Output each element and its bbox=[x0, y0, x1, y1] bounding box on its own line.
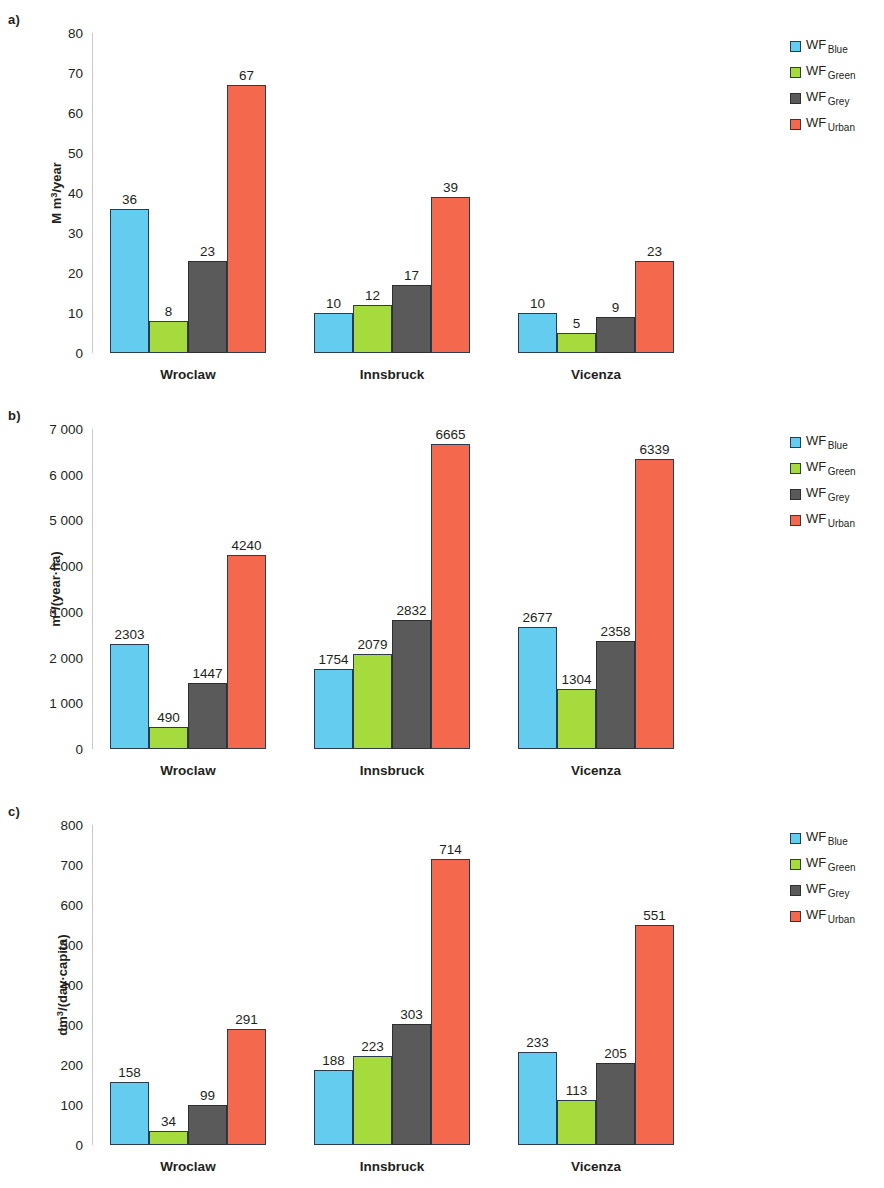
legend-swatch-blue-icon bbox=[790, 437, 801, 448]
bar: 233 bbox=[518, 1052, 557, 1145]
bar: 10 bbox=[314, 313, 353, 353]
bar: 158 bbox=[110, 1082, 149, 1145]
y-axis-tick-label: 100 bbox=[60, 1098, 83, 1113]
x-axis-category-label: Vicenza bbox=[571, 367, 621, 382]
bar: 551 bbox=[635, 925, 674, 1145]
legend-item-label: WFGrey bbox=[806, 89, 849, 106]
legend-item[interactable]: WFGreen bbox=[790, 59, 884, 85]
bar: 5 bbox=[557, 333, 596, 353]
bar: 188 bbox=[314, 1070, 353, 1145]
bar-value-label: 113 bbox=[566, 1083, 588, 1098]
legend-swatch-green-icon bbox=[790, 463, 801, 474]
bar: 1754 bbox=[314, 669, 353, 749]
y-axis-line bbox=[92, 33, 93, 353]
x-axis-category-label: Vicenza bbox=[571, 1159, 621, 1174]
bar-value-label: 490 bbox=[157, 710, 180, 725]
bar-value-label: 12 bbox=[365, 288, 380, 303]
legend-item-subscript: Grey bbox=[828, 888, 850, 899]
chart-panel-a: a) M m3/year 010203040506070803682367Wro… bbox=[0, 0, 884, 396]
bar-value-label: 67 bbox=[239, 68, 254, 83]
x-axis-category-label: Wroclaw bbox=[160, 367, 215, 382]
legend-item-subscript: Grey bbox=[828, 96, 850, 107]
legend-swatch-red-icon bbox=[790, 911, 801, 922]
bar: 4240 bbox=[227, 555, 266, 749]
legend-item[interactable]: WFUrban bbox=[790, 111, 884, 137]
x-axis-category-label: Innsbruck bbox=[360, 763, 425, 778]
legend-item[interactable]: WFGrey bbox=[790, 85, 884, 111]
bar-group: 1754207928326665Innsbruck bbox=[314, 429, 470, 749]
bar-value-label: 303 bbox=[400, 1007, 423, 1022]
legend-swatch-grey-icon bbox=[790, 885, 801, 896]
legend-item[interactable]: WFBlue bbox=[790, 825, 884, 851]
legend-item-subscript: Grey bbox=[828, 492, 850, 503]
legend-item-subscript: Urban bbox=[828, 122, 855, 133]
legend-item[interactable]: WFGreen bbox=[790, 455, 884, 481]
legend-item-label: WFGrey bbox=[806, 881, 849, 898]
legend-swatch-red-icon bbox=[790, 119, 801, 130]
legend-item-subscript: Blue bbox=[828, 836, 848, 847]
panel-letter-a: a) bbox=[8, 12, 20, 27]
bar-value-label: 4240 bbox=[231, 538, 261, 553]
legend-item[interactable]: WFUrban bbox=[790, 507, 884, 533]
bar-value-label: 39 bbox=[443, 180, 458, 195]
bar-group: 105923Vicenza bbox=[518, 33, 674, 353]
legend-swatch-blue-icon bbox=[790, 41, 801, 52]
y-axis-tick-label: 10 bbox=[68, 306, 83, 321]
bar-value-label: 8 bbox=[165, 304, 173, 319]
legend-item[interactable]: WFUrban bbox=[790, 903, 884, 929]
legend-swatch-grey-icon bbox=[790, 93, 801, 104]
y-axis-label-exponent: 3 bbox=[49, 193, 59, 198]
legend-item[interactable]: WFBlue bbox=[790, 429, 884, 455]
legend-item[interactable]: WFBlue bbox=[790, 33, 884, 59]
bar: 2832 bbox=[392, 620, 431, 749]
x-axis-category-label: Wroclaw bbox=[160, 763, 215, 778]
bar-value-label: 158 bbox=[118, 1065, 141, 1080]
y-axis-tick-label: 0 bbox=[75, 742, 83, 757]
bar-value-label: 23 bbox=[200, 244, 215, 259]
chart-panel-b: b) m3/(year·ha) 01 0002 0003 0004 0005 0… bbox=[0, 396, 884, 792]
bar-value-label: 34 bbox=[161, 1114, 176, 1129]
y-axis-tick-label: 5 000 bbox=[49, 513, 83, 528]
bar: 2079 bbox=[353, 654, 392, 749]
bar: 1447 bbox=[188, 683, 227, 749]
legend-item[interactable]: WFGrey bbox=[790, 877, 884, 903]
bar-value-label: 99 bbox=[200, 1088, 215, 1103]
bar: 8 bbox=[149, 321, 188, 353]
y-axis-tick-label: 2 000 bbox=[49, 650, 83, 665]
bar: 39 bbox=[431, 197, 470, 353]
y-axis-tick-label: 6 000 bbox=[49, 467, 83, 482]
y-axis-tick-label: 200 bbox=[60, 1058, 83, 1073]
bar-value-label: 2677 bbox=[522, 610, 552, 625]
bar-value-label: 5 bbox=[573, 316, 581, 331]
bar-value-label: 205 bbox=[604, 1046, 627, 1061]
legend-item-label: WFUrban bbox=[806, 115, 855, 132]
bar-group: 1583499291Wroclaw bbox=[110, 825, 266, 1145]
bar: 490 bbox=[149, 727, 188, 749]
y-axis-tick-label: 4 000 bbox=[49, 559, 83, 574]
y-axis-line bbox=[92, 429, 93, 749]
bar-value-label: 551 bbox=[643, 908, 666, 923]
y-axis-tick-label: 0 bbox=[75, 1138, 83, 1153]
bar-value-label: 10 bbox=[326, 296, 341, 311]
bar: 67 bbox=[227, 85, 266, 353]
y-axis-tick-label: 600 bbox=[60, 898, 83, 913]
bar: 2677 bbox=[518, 627, 557, 749]
bar-group: 2677130423586339Vicenza bbox=[518, 429, 674, 749]
bar-value-label: 36 bbox=[122, 192, 137, 207]
bar: 17 bbox=[392, 285, 431, 353]
legend-item-subscript: Urban bbox=[828, 518, 855, 529]
legend-item-label: WFGrey bbox=[806, 485, 849, 502]
y-axis-tick-label: 70 bbox=[68, 66, 83, 81]
y-axis-tick-label: 3 000 bbox=[49, 604, 83, 619]
bar: 99 bbox=[188, 1105, 227, 1145]
legend-item-subscript: Blue bbox=[828, 440, 848, 451]
bar: 303 bbox=[392, 1024, 431, 1145]
legend-swatch-green-icon bbox=[790, 67, 801, 78]
legend-item[interactable]: WFGrey bbox=[790, 481, 884, 507]
legend-item[interactable]: WFGreen bbox=[790, 851, 884, 877]
bar: 113 bbox=[557, 1100, 596, 1145]
bar-value-label: 1754 bbox=[318, 652, 348, 667]
bar-group: 233113205551Vicenza bbox=[518, 825, 674, 1145]
bar: 714 bbox=[431, 859, 470, 1145]
legend-item-label: WFBlue bbox=[806, 37, 848, 54]
